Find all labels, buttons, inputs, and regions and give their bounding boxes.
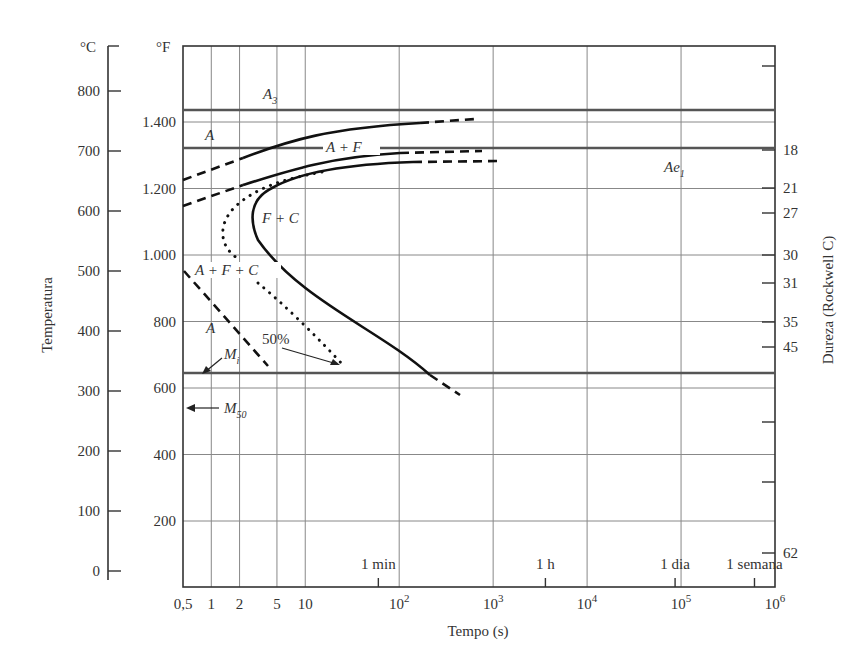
curve-fc-start-tail [400, 151, 482, 153]
celsius-axis: 0100200300400500600700800 [78, 46, 122, 580]
celsius-tick-label: 600 [78, 203, 101, 219]
fahrenheit-tick-label: 800 [154, 314, 177, 330]
label-region-a-top: A [204, 127, 215, 143]
fahrenheit-axis: 2004006008001.0001.2001.400 [142, 114, 176, 529]
celsius-tick-label: 100 [78, 503, 101, 519]
curve-fc-start-solid [243, 153, 400, 185]
time-tick-label: 1 [208, 596, 216, 612]
hardness-tick-label: 45 [783, 339, 798, 355]
curve-finish-lower-dashed [430, 375, 460, 395]
fahrenheit-tick-label: 1.000 [142, 247, 176, 263]
y-axis-title-left: Temperatura [39, 277, 55, 353]
x-axis-title: Tempo (s) [447, 623, 508, 640]
curve-finish-tail [413, 161, 503, 162]
time-marker-label: 1 semana [726, 556, 783, 572]
time-tick-label: 2 [236, 596, 244, 612]
gridlines [183, 46, 775, 587]
time-marker-label: 1 min [361, 556, 396, 572]
label-region-afc: A + F + C [194, 262, 259, 278]
fahrenheit-tick-label: 600 [154, 380, 177, 396]
fahrenheit-tick-label: 400 [154, 447, 177, 463]
time-tick-label: 5 [273, 596, 281, 612]
celsius-tick-label: 300 [78, 383, 101, 399]
celsius-tick-label: 500 [78, 263, 101, 279]
hardness-axis: 1821273031354562 [762, 66, 799, 561]
fahrenheit-tick-label: 1.400 [142, 114, 176, 130]
celsius-tick-label: 200 [78, 443, 101, 459]
hardness-tick-label: 30 [783, 247, 798, 263]
ttt-diagram: 0100200300400500600700800 2004006008001.… [0, 0, 861, 667]
label-region-fc: F + C [261, 210, 300, 226]
celsius-tick-label: 700 [78, 143, 101, 159]
time-tick-label: 104 [577, 592, 598, 612]
time-marker-label: 1 h [536, 556, 555, 572]
label-ae1: Ae1 [663, 159, 685, 179]
time-tick-label: 105 [671, 592, 692, 612]
unit-fahrenheit: °F [156, 39, 170, 55]
plot-frame [183, 46, 775, 587]
celsius-tick-label: 0 [93, 563, 101, 579]
hardness-tick-label: 35 [783, 314, 798, 330]
hardness-tick-label: 18 [783, 142, 798, 158]
label-region-af: A + F [325, 139, 363, 155]
unit-celsius: °C [80, 39, 96, 55]
label-region-a-low: A [205, 320, 216, 336]
time-tick-label: 0,5 [174, 596, 193, 612]
arrow-50pct-head [330, 359, 340, 365]
y-axis-title-right: Dureza (Rockwell C) [820, 236, 837, 364]
hardness-tick-label: 62 [783, 545, 798, 561]
label-m50: M50 [223, 400, 247, 420]
time-tick-label: 10 [298, 596, 313, 612]
fahrenheit-tick-label: 200 [154, 513, 177, 529]
label-50pct: 50% [262, 331, 290, 347]
time-marker-label: 1 dia [660, 556, 690, 572]
label-a3: A3 [262, 86, 277, 106]
time-tick-label: 106 [765, 592, 786, 612]
hardness-tick-label: 21 [783, 180, 798, 196]
time-tick-label: 102 [389, 592, 410, 612]
label-mi: Mi [223, 346, 240, 366]
curve-50pct-dotted-lower [258, 283, 343, 365]
time-axis: 0,5125101021031041051061 min1 h1 dia1 se… [174, 556, 786, 612]
fahrenheit-tick-label: 1.200 [142, 181, 176, 197]
curve-af-start-dashed [183, 158, 243, 180]
celsius-tick-label: 800 [78, 83, 101, 99]
arrow-m50-head [186, 404, 195, 412]
celsius-tick-label: 400 [78, 323, 101, 339]
hardness-tick-label: 27 [783, 205, 799, 221]
time-tick-label: 103 [483, 592, 504, 612]
hardness-tick-label: 31 [783, 275, 798, 291]
